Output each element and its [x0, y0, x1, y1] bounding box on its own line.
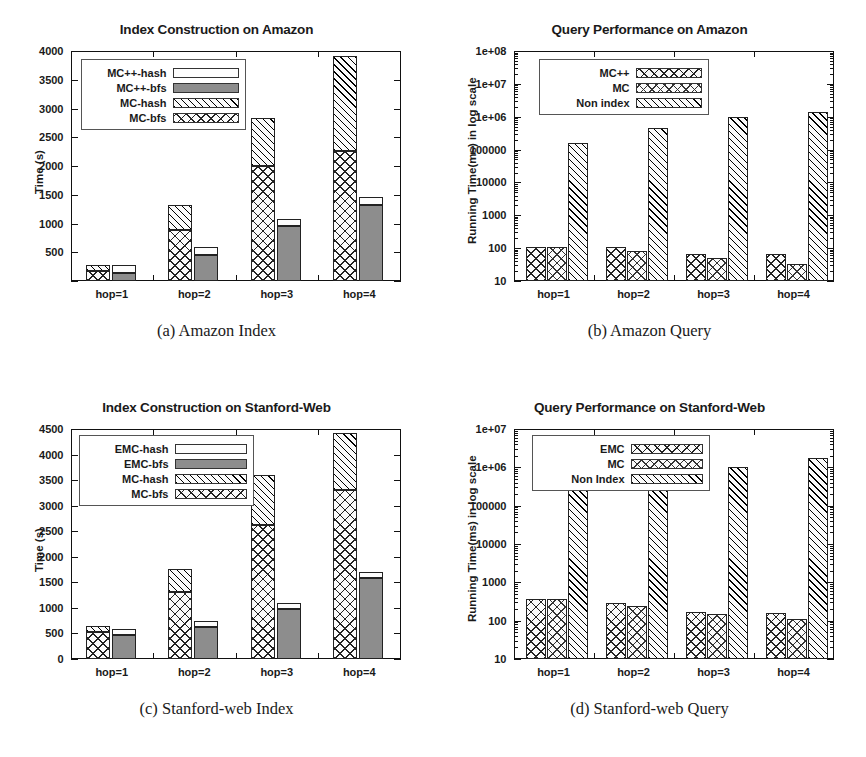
legend-item: EMC	[539, 441, 703, 456]
y-minor-tick	[830, 556, 834, 557]
y-minor-tick	[514, 167, 518, 168]
bar-segment	[277, 603, 301, 609]
y-tick-mark	[394, 582, 401, 583]
legend: MC++MCNon index	[539, 59, 709, 115]
y-minor-tick	[514, 140, 518, 141]
x-tick-label: hop=1	[537, 288, 570, 300]
chart-title-b: Query Performance on Amazon	[552, 22, 748, 37]
bar-non-index	[808, 458, 828, 659]
x-tick-label: hop=2	[178, 666, 211, 678]
y-minor-tick	[514, 546, 518, 547]
y-minor-tick	[514, 64, 518, 65]
y-tick-label: 0	[21, 653, 64, 665]
y-tick-label: 1e+06	[454, 111, 507, 123]
y-minor-tick	[830, 68, 834, 69]
y-minor-tick	[830, 186, 834, 187]
y-minor-tick	[514, 553, 518, 554]
y-minor-tick	[514, 584, 518, 585]
y-minor-tick	[830, 441, 834, 442]
y-minor-tick	[830, 238, 834, 239]
bar-segment	[251, 475, 275, 525]
panel-amazon-query: Query Performance on Amazon Running Time…	[433, 0, 866, 378]
bar-segment	[359, 205, 383, 281]
y-minor-tick	[514, 514, 518, 515]
x-tick-mark	[318, 275, 319, 281]
x-tick-mark	[674, 275, 675, 281]
y-tick-label: 10000	[454, 538, 507, 550]
y-minor-tick	[830, 173, 834, 174]
y-minor-tick	[830, 184, 834, 185]
legend-swatch	[636, 68, 702, 78]
y-minor-tick	[514, 217, 518, 218]
y-minor-tick	[830, 627, 834, 628]
y-minor-tick	[830, 469, 834, 470]
x-tick-label: hop=3	[260, 288, 293, 300]
y-minor-tick	[830, 584, 834, 585]
x-tick-mark	[674, 51, 675, 57]
bar-emc	[686, 612, 706, 659]
y-minor-tick	[830, 91, 834, 92]
y-minor-tick	[514, 253, 518, 254]
y-tick-label: 2500	[21, 131, 64, 143]
bar-segment	[112, 635, 136, 659]
bar-mc	[787, 619, 807, 659]
y-minor-tick	[514, 571, 518, 572]
bar-emc	[766, 613, 786, 659]
y-minor-tick	[830, 586, 834, 587]
y-minor-tick	[514, 479, 518, 480]
bar-segment	[86, 632, 110, 659]
x-tick-mark	[318, 51, 319, 57]
legend-label: MC	[612, 82, 629, 94]
y-minor-tick	[830, 632, 834, 633]
y-tick-label: 1500	[21, 576, 64, 588]
y-minor-tick	[830, 157, 834, 158]
y-minor-tick	[830, 53, 834, 54]
y-minor-tick	[830, 548, 834, 549]
y-tick-label: 4500	[21, 423, 64, 435]
y-minor-tick	[830, 629, 834, 630]
bar-mc	[547, 247, 567, 281]
bar-segment	[251, 525, 275, 659]
y-minor-tick	[514, 591, 518, 592]
y-minor-tick	[514, 232, 518, 233]
y-minor-tick	[514, 624, 518, 625]
y-minor-tick	[830, 258, 834, 259]
y-tick-mark	[71, 137, 78, 138]
y-minor-tick	[830, 85, 834, 86]
y-minor-tick	[830, 74, 834, 75]
x-tick-label: hop=4	[343, 288, 376, 300]
y-minor-tick	[514, 85, 518, 86]
y-tick-mark	[394, 608, 401, 609]
bar-segment	[359, 572, 383, 579]
y-minor-tick	[830, 444, 834, 445]
y-minor-tick	[514, 255, 518, 256]
y-minor-tick	[830, 507, 834, 508]
x-tick-label: hop=4	[343, 666, 376, 678]
y-tick-mark	[394, 633, 401, 634]
y-minor-tick	[830, 433, 834, 434]
y-minor-tick	[514, 159, 518, 160]
y-minor-tick	[514, 251, 518, 252]
y-minor-tick	[514, 74, 518, 75]
y-tick-mark	[394, 252, 401, 253]
caption-a: (a) Amazon Index	[157, 321, 276, 341]
y-minor-tick	[514, 588, 518, 589]
y-tick-label: 3500	[21, 74, 64, 86]
y-minor-tick	[514, 641, 518, 642]
panel-stanford-query: Query Performance on Stanford-Web Runnin…	[433, 378, 866, 757]
y-minor-tick	[830, 205, 834, 206]
y-minor-tick	[514, 471, 518, 472]
y-minor-tick	[514, 190, 518, 191]
y-minor-tick	[514, 223, 518, 224]
x-tick-mark	[594, 51, 595, 57]
bar-mc-	[766, 254, 786, 281]
y-minor-tick	[514, 526, 518, 527]
y-tick-mark	[71, 80, 78, 81]
y-minor-tick	[514, 124, 518, 125]
bar-segment	[251, 166, 275, 281]
caption-b: (b) Amazon Query	[588, 321, 712, 341]
y-minor-tick	[514, 250, 518, 251]
y-tick-mark	[394, 166, 401, 167]
y-minor-tick	[830, 435, 834, 436]
y-minor-tick	[830, 118, 834, 119]
